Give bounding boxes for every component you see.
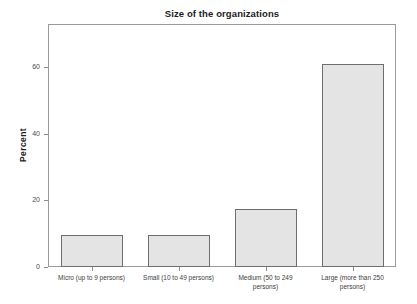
y-axis-tick-label: 60 <box>32 62 40 71</box>
bar <box>235 209 297 267</box>
bar <box>61 235 123 267</box>
bar <box>322 64 384 267</box>
chart-title: Size of the organizations <box>48 8 396 19</box>
x-axis-tick-label: Micro (up to 9 persons) <box>48 274 135 283</box>
y-axis-tick-label: 20 <box>32 195 40 204</box>
x-axis-tick-label: Small (10 to 49 persons) <box>135 274 222 283</box>
x-axis-tick-mark <box>92 267 93 271</box>
x-axis-tick-mark <box>353 267 354 271</box>
y-axis-tick-label: 0 <box>36 262 40 271</box>
y-axis-tick: 0 <box>0 267 48 268</box>
x-axis-tick-mark <box>179 267 180 271</box>
x-axis-tick-mark <box>266 267 267 271</box>
x-axis-tick-label: Large (more than 250persons) <box>309 274 396 291</box>
y-axis-tick: 40 <box>0 134 48 135</box>
y-axis-tick-mark <box>44 267 48 268</box>
y-axis-label: Percent <box>16 110 30 180</box>
x-axis-tick-label: Medium (50 to 249persons) <box>222 274 309 291</box>
bar <box>148 235 210 267</box>
y-axis-tick-label: 40 <box>32 129 40 138</box>
y-axis-tick: 20 <box>0 200 48 201</box>
plot-area <box>48 24 396 267</box>
y-axis-tick: 60 <box>0 67 48 68</box>
bar-chart: Size of the organizations Percent 020406… <box>0 0 417 304</box>
